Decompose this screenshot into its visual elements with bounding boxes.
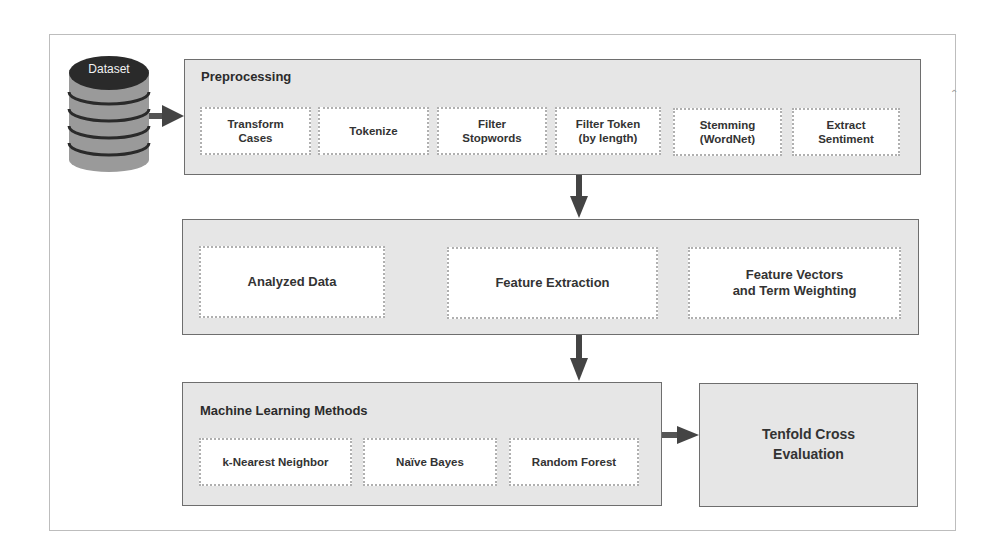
ml-method-label: Random Forest (532, 455, 616, 469)
evaluation-label-line2: Evaluation (762, 445, 855, 465)
evaluation-label-line1: Tenfold Cross (762, 425, 855, 445)
evaluation-panel: Tenfold Cross Evaluation (699, 383, 918, 507)
step-transform-cases: TransformCases (200, 107, 311, 155)
arrow-features-to-ml (570, 335, 588, 381)
arrow-ml-to-evaluation (661, 426, 699, 444)
step-tokenize: Tokenize (318, 107, 429, 155)
step-filter-stopwords: FilterStopwords (437, 107, 547, 155)
step-label-line1: Feature Extraction (495, 275, 609, 291)
step-label-line1: Extract (818, 118, 874, 132)
step-label-line2: Stopwords (462, 131, 521, 145)
dataset-label: Dataset (69, 62, 149, 76)
ml-method-naive-bayes: Naïve Bayes (363, 438, 497, 486)
preprocessing-title: Preprocessing (201, 69, 291, 84)
ml-method-random-forest: Random Forest (509, 438, 639, 486)
step-stemming-wordnet: Stemming(WordNet) (673, 108, 782, 156)
step-filter-token-length: Filter Token(by length) (555, 107, 661, 155)
ml-methods-title: Machine Learning Methods (200, 403, 368, 418)
step-analyzed-data: Analyzed Data (199, 246, 385, 318)
step-label-line2: Cases (227, 131, 283, 145)
step-label-line1: Filter (462, 117, 521, 131)
step-label-line1: Tokenize (349, 124, 397, 138)
step-label-line1: Feature Vectors (733, 267, 857, 283)
step-label-line2: Sentiment (818, 132, 874, 146)
caret-up-icon: ⌃ (950, 88, 958, 99)
ml-method-knn: k-Nearest Neighbor (199, 438, 352, 486)
arrow-dataset-to-preprocessing (149, 105, 184, 127)
step-label-line1: Transform (227, 117, 283, 131)
step-feature-extraction: Feature Extraction (447, 247, 658, 319)
evaluation-label: Tenfold Cross Evaluation (700, 384, 917, 506)
step-label-line1: Filter Token (576, 117, 640, 131)
step-feature-vectors-term-weighting: Feature Vectorsand Term Weighting (688, 247, 901, 319)
ml-method-label: k-Nearest Neighbor (222, 455, 328, 469)
step-label-line2: and Term Weighting (733, 283, 857, 299)
step-extract-sentiment: ExtractSentiment (792, 108, 900, 156)
step-label-line1: Stemming (700, 118, 756, 132)
step-label-line1: Analyzed Data (248, 274, 337, 290)
ml-method-label: Naïve Bayes (396, 455, 464, 469)
step-label-line2: (WordNet) (700, 132, 756, 146)
step-label-line2: (by length) (576, 131, 640, 145)
arrow-preprocessing-to-features (570, 174, 588, 218)
